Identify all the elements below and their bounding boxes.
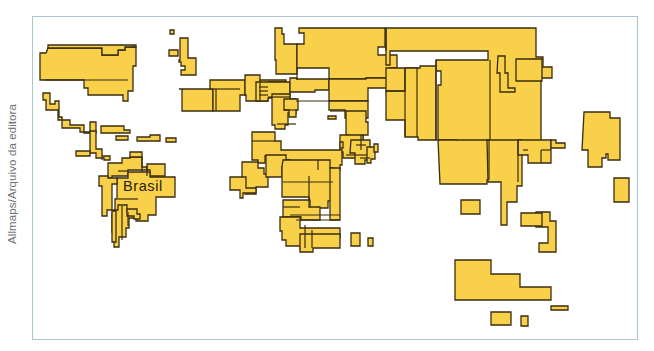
region-mexico: [43, 93, 96, 133]
region-madagascar-2: [368, 238, 373, 246]
region-central-strip: [76, 151, 90, 156]
region-chile-strip: [112, 211, 116, 242]
region-caribbean-1: [137, 135, 160, 141]
region-madagascar-1: [351, 233, 360, 246]
region-kazakh: [329, 78, 390, 101]
region-nz-1: [491, 312, 511, 325]
region-taiwan: [551, 140, 565, 148]
region-australia: [455, 260, 551, 300]
region-japan: [516, 59, 542, 81]
world-cartogram: Brasil: [0, 0, 654, 351]
region-philippines: [518, 140, 551, 163]
region-indochina: [487, 140, 522, 225]
region-caribbean-2: [166, 138, 176, 142]
region-scandinavia: [179, 38, 196, 75]
region-new-guinea: [551, 306, 568, 310]
region-caspian-small: [328, 116, 336, 119]
country-shapes: [40, 28, 629, 326]
region-russia-main: [297, 28, 397, 79]
region-france-germany: [210, 80, 245, 111]
region-southeast-mainland: [438, 140, 489, 184]
region-venezuela: [130, 152, 142, 157]
region-arabia: [340, 142, 343, 148]
region-central-america: [90, 131, 110, 160]
brazil-label: Brasil: [123, 178, 163, 194]
region-cuba: [101, 126, 130, 133]
region-ukraine: [290, 78, 329, 92]
region-iceland-small: [170, 30, 174, 34]
region-malaysia: [521, 213, 542, 226]
region-south-africa: [300, 234, 340, 252]
region-nz-2: [521, 316, 528, 326]
region-usa-canada: [40, 47, 136, 101]
region-japan-islands: [582, 112, 620, 167]
region-sri-lanka: [374, 144, 378, 152]
region-russia-west: [275, 28, 297, 74]
region-east-africa: [330, 168, 340, 220]
region-uk-ireland: [169, 50, 178, 56]
region-hispaniola: [116, 136, 128, 140]
region-pacific-islands: [614, 178, 629, 202]
region-spain-france: [179, 89, 213, 111]
region-indonesia-small: [461, 200, 480, 214]
